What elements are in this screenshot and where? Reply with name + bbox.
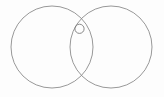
circles-diagram [0, 0, 164, 97]
figure-canvas: Line drawing of two large equal circles … [0, 0, 164, 97]
diagram-background [0, 0, 164, 97]
